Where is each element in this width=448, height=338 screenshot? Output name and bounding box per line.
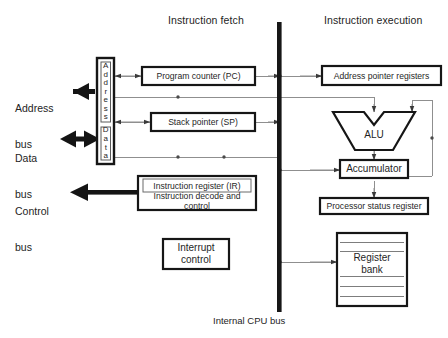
internal-cpu-bus-caption: Internal CPU bus <box>213 315 285 326</box>
data-letter-3: a <box>104 152 108 161</box>
address-letter-6: s <box>104 113 108 122</box>
accumulator-label: Accumulator <box>340 160 408 178</box>
address-pointer-registers-label: Address pointer registers <box>322 66 441 85</box>
address-bus-label-line1: Address <box>15 102 54 114</box>
program-counter-label: Program counter (PC) <box>142 67 255 85</box>
data-bus-arrow <box>60 131 100 148</box>
stack-pointer-label: Stack pointer (SP) <box>151 113 255 131</box>
cpu-block-diagram: Instruction fetch Instruction execution … <box>0 0 448 338</box>
alu-label: ALU <box>350 128 398 142</box>
data-bus-label-line1: Data <box>15 152 37 164</box>
heading-instruction-execution: Instruction execution <box>324 14 422 26</box>
control-bus-label-line2: bus <box>15 241 49 253</box>
control-bus-label: Control bus <box>15 181 49 277</box>
data-buffer-letters: D a t a <box>101 127 111 160</box>
instruction-decode-label: Instruction decode and control <box>139 192 255 209</box>
internal-cpu-bus-line <box>277 22 282 312</box>
address-buffer-letters: A d d r e s s <box>101 62 111 122</box>
register-bank-label: Register bank <box>337 251 407 276</box>
heading-instruction-fetch: Instruction fetch <box>168 14 244 26</box>
interrupt-control-label: Interrupt control <box>163 239 229 269</box>
control-bus-label-line1: Control <box>15 205 49 217</box>
processor-status-register-label: Processor status register <box>320 198 428 214</box>
address-bus-arrow <box>73 83 95 100</box>
control-bus-arrow <box>70 184 139 202</box>
